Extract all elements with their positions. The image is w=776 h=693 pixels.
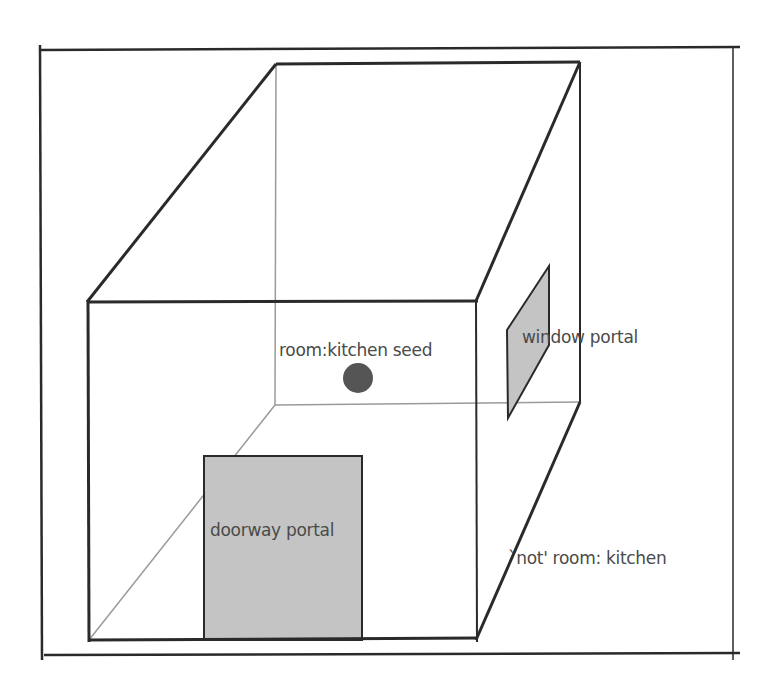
window-portal-label: window portal [522,327,638,347]
doorway-portal [204,456,362,640]
seed-dot [343,363,373,393]
outside-label: `not' room: kitchen [508,548,666,568]
seed-label: room:kitchen seed [279,340,432,360]
doorway-portal-label: doorway portal [210,520,334,540]
